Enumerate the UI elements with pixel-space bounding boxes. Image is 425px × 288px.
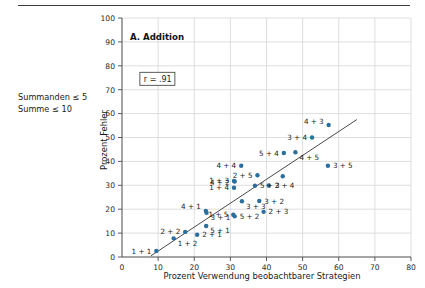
- data-point-label: 4 + 3: [304, 117, 324, 126]
- data-point-label: 4 + 2: [210, 178, 230, 187]
- y-tick-label: 10: [105, 229, 115, 238]
- figure-container: Summanden ≤ 5 Summe ≤ 10 010203040506070…: [0, 0, 425, 288]
- data-point: [154, 249, 158, 253]
- y-tick-label: 90: [105, 38, 115, 47]
- data-points: [154, 123, 331, 253]
- x-tick-label: 70: [370, 263, 380, 272]
- y-tick-label: 70: [105, 86, 115, 95]
- data-point-label: 1 + 1: [132, 247, 152, 256]
- data-point-label: 2 + 2: [160, 227, 180, 236]
- data-point: [233, 214, 237, 218]
- data-point-label: 2 + 4: [275, 181, 295, 190]
- data-point: [240, 199, 244, 203]
- data-point: [232, 185, 236, 189]
- data-point: [233, 179, 237, 183]
- y-tick-label: 20: [105, 205, 115, 214]
- x-tick-label: 0: [120, 263, 125, 272]
- correlation-label: r = .91: [144, 75, 172, 84]
- data-point-label: 4 + 5: [299, 153, 319, 162]
- data-point-label: 3 + 4: [287, 133, 307, 142]
- data-point: [282, 151, 286, 155]
- correlation-annotation: r = .91: [140, 72, 175, 85]
- data-point-label: 3 + 5: [333, 161, 353, 170]
- scatter-plot-svg: 010203040506070809010001020304050607080 …: [0, 0, 425, 288]
- data-point: [326, 123, 330, 127]
- data-point: [239, 164, 243, 168]
- x-tick-label: 10: [153, 263, 163, 272]
- data-point-label: 3 + 2: [264, 197, 284, 206]
- data-point-label: 3 + 3: [246, 202, 266, 211]
- data-point: [310, 135, 314, 139]
- data-point: [204, 224, 208, 228]
- y-tick-label: 0: [110, 253, 115, 262]
- data-point-label: 5 + 4: [259, 149, 279, 158]
- y-tick-label: 80: [105, 62, 115, 71]
- data-point-label: 2 + 3: [269, 207, 289, 216]
- data-point: [253, 184, 257, 188]
- grid-lines: [122, 18, 411, 257]
- data-point: [293, 150, 297, 154]
- data-point: [204, 209, 208, 213]
- x-axis-title: Prozent Verwendung beobachtbarer Strateg…: [164, 271, 361, 281]
- data-point-label: 1 + 2: [178, 239, 198, 248]
- data-point: [195, 233, 199, 237]
- y-tick-label: 100: [101, 14, 116, 23]
- y-axis-title: Prozent Fehler: [99, 110, 109, 170]
- scatter-plot: 010203040506070809010001020304050607080 …: [0, 0, 425, 288]
- y-tick-label: 30: [105, 181, 115, 190]
- data-point: [326, 164, 330, 168]
- data-point-label: 1 + 5: [209, 210, 229, 219]
- data-point-label: 5 + 1: [210, 226, 230, 235]
- data-point-label: 4 + 4: [216, 161, 236, 170]
- data-point: [281, 174, 285, 178]
- data-point-label: 4 + 1: [181, 202, 201, 211]
- data-point-label: 2 + 5: [233, 171, 253, 180]
- data-point: [171, 236, 175, 240]
- data-point-label: 5 + 2: [240, 212, 260, 221]
- panel-title: A. Addition: [130, 32, 184, 42]
- data-point: [183, 230, 187, 234]
- x-tick-label: 80: [406, 263, 416, 272]
- data-point: [255, 173, 259, 177]
